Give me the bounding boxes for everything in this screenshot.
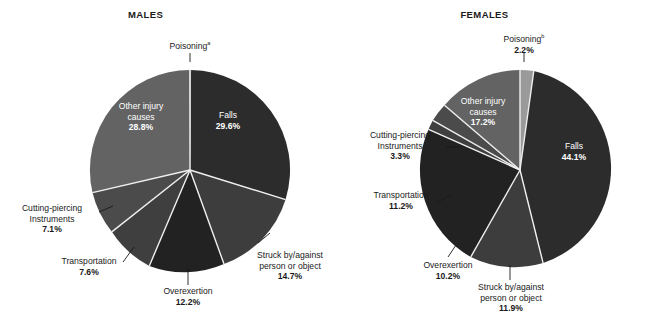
females-label-struck-by: Struck by/against person or object 11.9% — [464, 282, 558, 314]
males-label-cutting-piercing: Cutting-piercing Instruments 7.1% — [6, 203, 98, 235]
males-poisoning-footnote-marker: a — [207, 40, 210, 46]
males-label-struck-by: Struck by/against person or object 14.7% — [244, 250, 336, 282]
females-label-other-injury: Other injury causes 17.2% — [438, 96, 528, 128]
males-label-other-injury: Other injury causes 28.8% — [96, 101, 186, 133]
females-label-overexertion: Overexertion 10.2% — [406, 260, 490, 281]
males-label-transportation: Transportation 7.6% — [56, 256, 122, 277]
females-poisoning-footnote-marker: b — [541, 33, 544, 39]
males-panel: MALES — [0, 0, 329, 319]
females-label-transportation: Transportation 11.2% — [366, 190, 436, 211]
males-label-overexertion: Overexertion 12.2% — [146, 286, 230, 307]
males-label-falls: Falls 29.6% — [188, 110, 268, 131]
females-panel: FEMALES — [328, 0, 657, 319]
injury-cause-pie-figure: MALES — [0, 0, 657, 319]
females-label-cutting-piercing: Cutting-piercing Instruments 3.3% — [354, 130, 446, 162]
leader-overexertion — [448, 245, 456, 257]
females-poisoning-name-line: Poisoningb — [468, 34, 580, 45]
females-label-poisoning: Poisoningb 2.2% — [468, 34, 580, 55]
males-label-poisoning: Poisoninga — [110, 41, 270, 52]
females-label-falls: Falls 44.1% — [534, 141, 614, 162]
